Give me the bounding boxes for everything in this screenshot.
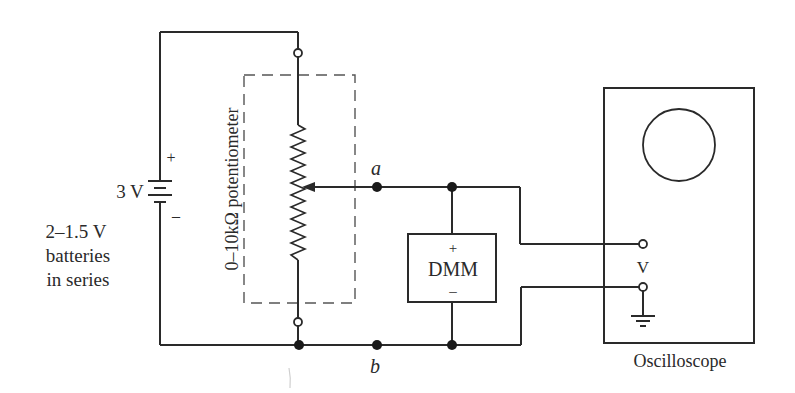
oscilloscope-box bbox=[604, 88, 754, 343]
oscilloscope-input-terminal-bottom bbox=[639, 283, 647, 291]
dmm-positive-junction bbox=[447, 182, 457, 192]
battery-description-line-1: 2–1.5 V bbox=[46, 221, 107, 242]
node-a-dot bbox=[372, 182, 382, 192]
oscilloscope-label: Oscilloscope bbox=[634, 351, 727, 371]
battery-description-line-2: batteries bbox=[46, 245, 110, 266]
dmm-plus-label: + bbox=[449, 240, 457, 256]
dmm-minus-label: – bbox=[448, 283, 457, 299]
battery-description-line-3: in series bbox=[47, 269, 110, 290]
potentiometer-bottom-terminal bbox=[294, 318, 302, 326]
battery-symbol bbox=[148, 181, 172, 202]
wiper-arrow-icon bbox=[302, 182, 377, 192]
scan-artifact bbox=[289, 368, 290, 388]
potentiometer-top-terminal bbox=[294, 49, 302, 57]
dmm-negative-junction bbox=[447, 340, 457, 350]
battery-minus-label: – bbox=[171, 207, 181, 224]
node-b-label: b bbox=[370, 355, 380, 377]
node-a-label: a bbox=[371, 157, 381, 179]
potentiometer-dashed-enclosure bbox=[244, 75, 355, 303]
battery-plus-label: + bbox=[166, 149, 175, 166]
oscilloscope-input-label: V bbox=[637, 258, 650, 277]
ground-icon bbox=[631, 291, 655, 326]
potentiometer-label: 0–10kΩ potentiometer bbox=[222, 108, 242, 271]
battery-voltage-label: 3 V bbox=[116, 181, 144, 202]
potentiometer-resistor-icon bbox=[291, 57, 305, 345]
pot-bottom-junction bbox=[294, 340, 304, 350]
dmm-label: DMM bbox=[428, 258, 478, 280]
oscilloscope-screen-icon bbox=[643, 109, 715, 181]
node-b-dot bbox=[372, 340, 382, 350]
circuit-diagram: + – 3 V 2–1.5 V batteries in series 0–10… bbox=[0, 0, 795, 393]
oscilloscope-input-terminal-top bbox=[639, 240, 647, 248]
